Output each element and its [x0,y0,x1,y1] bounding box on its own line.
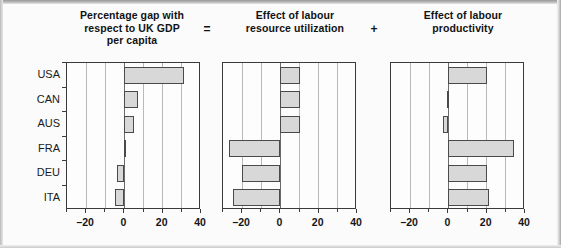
xticklabel-1-0: 0 [277,216,283,228]
xtick-2-40 [524,209,525,213]
category-label-can: CAN [12,93,60,105]
xtick-0-20 [162,209,163,213]
zero-line-2-0 [448,63,449,208]
xticklabel-0-20: 20 [156,216,168,228]
zero-line-0-0 [124,63,125,208]
gridline-2-30 [505,63,506,208]
bar-1-fra [229,140,281,157]
xtick-minor-1--30 [222,209,223,212]
bar-1-deu [242,165,280,182]
xticklabel-2-40: 40 [518,216,530,228]
gridline-1-10 [299,63,300,208]
bar-1-can [280,91,299,108]
gridline-2--10 [429,63,430,208]
xtick-minor-0-30 [181,209,182,212]
xtick-minor-1-30 [337,209,338,212]
xtick-minor-1--10 [260,209,261,212]
bar-0-usa [124,67,183,84]
bar-2-fra [448,140,513,157]
gridline-0--20 [86,63,87,208]
panel-title-0-line-0: Percentage gap with [64,9,200,22]
bar-1-usa [280,67,299,84]
category-label-aus: AUS [12,117,60,129]
xticklabel-2-20: 20 [480,216,492,228]
gridline-2-20 [486,63,487,208]
plot-area-2 [390,62,524,209]
panel-title-0: Percentage gap with respect to UK GDP pe… [64,9,200,47]
bar-2-aus [443,116,449,133]
frame-edge-left [0,0,3,248]
operator-plus: + [370,22,377,36]
bar-0-deu [117,165,125,182]
xtick-1-40 [356,209,357,213]
bar-1-ita [233,189,281,206]
gridline-2--20 [410,63,411,208]
operator-equals: = [203,22,210,36]
gridline-1-20 [318,63,319,208]
gridline-1--10 [261,63,262,208]
xticklabel-1--20: –20 [232,216,250,228]
bar-2-deu [448,165,486,182]
bar-2-usa [448,67,486,84]
gridline-0--10 [105,63,106,208]
bar-0-ita [115,189,125,206]
xtick-1-0 [279,209,280,213]
xticklabel-0-0: 0 [121,216,127,228]
xticklabel-0--20: –20 [76,216,94,228]
xtick-2-0 [447,209,448,213]
gridline-0-10 [143,63,144,208]
panel-title-2: Effect of labour productivity [390,9,536,34]
category-label-deu: DEU [12,166,60,178]
xtick-0-0 [123,209,124,213]
xtick-1-20 [318,209,319,213]
frame-edge-right [557,0,561,248]
xtick-0-40 [200,209,201,213]
xtick-minor-2-10 [467,209,468,212]
bar-0-aus [124,116,134,133]
xticklabel-2-0: 0 [445,216,451,228]
xticklabel-0-40: 40 [194,216,206,228]
category-label-usa: USA [12,68,60,80]
xtick-minor-0--10 [104,209,105,212]
xticklabel-2--20: –20 [400,216,418,228]
xtick-minor-1-10 [299,209,300,212]
bar-2-can [447,91,449,108]
gridline-2-10 [467,63,468,208]
bar-2-ita [448,189,488,206]
panel-title-2-line-0: Effect of labour [390,9,536,22]
panel-title-2-line-1: productivity [390,22,536,35]
plot-area-1 [222,62,356,209]
panel-title-1-line-0: Effect of labour [222,9,368,22]
xtick-1--20 [241,209,242,213]
zero-line-1-0 [280,63,281,208]
panel-title-0-line-2: per capita [64,34,200,47]
xtick-minor-2--30 [390,209,391,212]
xtick-2--20 [409,209,410,213]
panel-title-1-line-1: resource utilization [222,22,368,35]
category-label-fra: FRA [12,142,60,154]
xtick-2-20 [486,209,487,213]
gridline-0-30 [181,63,182,208]
panel-title-0-line-1: respect to UK GDP [64,22,200,35]
bar-1-aus [280,116,299,133]
bar-0-can [124,91,137,108]
xtick-0--20 [85,209,86,213]
gridline-1-30 [337,63,338,208]
xtick-minor-0--30 [66,209,67,212]
xticklabel-1-40: 40 [350,216,362,228]
plot-area-0 [66,62,200,209]
panel-title-1: Effect of labour resource utilization [222,9,368,34]
xtick-minor-0-10 [143,209,144,212]
gridline-0-20 [162,63,163,208]
bar-0-fra [124,140,126,157]
xtick-minor-2--10 [428,209,429,212]
xticklabel-1-20: 20 [312,216,324,228]
gridline-1--20 [242,63,243,208]
frame-edge-top [0,0,561,4]
xtick-minor-2-30 [505,209,506,212]
category-label-ita: ITA [12,191,60,203]
figure-canvas: Percentage gap with respect to UK GDP pe… [0,0,561,248]
